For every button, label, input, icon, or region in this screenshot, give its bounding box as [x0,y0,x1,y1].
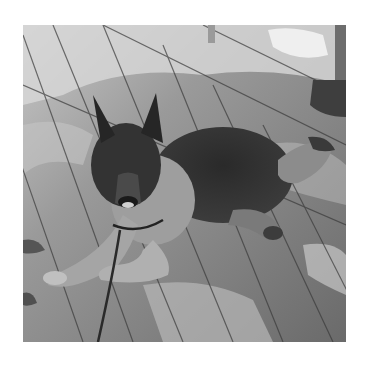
dog-tongue [122,202,134,208]
chair-leg [208,25,215,43]
dog-front-paw [43,271,67,285]
metal-post [335,25,346,85]
dog-hind-paw [263,226,283,240]
dog-photo [23,25,346,342]
photo-canvas [23,25,346,342]
